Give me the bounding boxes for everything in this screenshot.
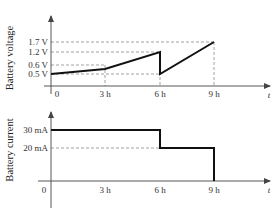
xtick-9h: 9 h bbox=[208, 89, 220, 99]
xtick-3h: 3 h bbox=[99, 89, 111, 99]
xtick-3h: 3 h bbox=[99, 185, 111, 195]
xtick-9h: 9 h bbox=[208, 185, 220, 195]
battery-charts: 1.7 V 1.2 V 0.6 V 0.5 V 0 3 h 6 h 9 h t … bbox=[0, 0, 277, 219]
xtick-0: 0 bbox=[42, 185, 47, 195]
x-axis-label-t: t bbox=[268, 185, 271, 195]
ytick-30ma: 30 mA bbox=[23, 125, 48, 135]
voltage-gridlines bbox=[51, 42, 214, 86]
xtick-0: 0 bbox=[55, 89, 60, 99]
current-y-axis-label: Battery current bbox=[4, 118, 15, 181]
xtick-6h: 6 h bbox=[154, 89, 166, 99]
ytick-1.7v: 1.7 V bbox=[28, 37, 48, 47]
ytick-0.5v: 0.5 V bbox=[28, 69, 48, 79]
ytick-20ma: 20 mA bbox=[23, 143, 48, 153]
voltage-chart: 1.7 V 1.2 V 0.6 V 0.5 V 0 3 h 6 h 9 h t … bbox=[4, 16, 271, 100]
ytick-1.2v: 1.2 V bbox=[28, 47, 48, 57]
voltage-line bbox=[51, 42, 214, 74]
current-line bbox=[51, 130, 214, 181]
voltage-y-axis-label: Battery voltage bbox=[4, 25, 15, 90]
xtick-6h: 6 h bbox=[154, 185, 166, 195]
x-axis-label-t: t bbox=[268, 90, 271, 100]
current-chart: 30 mA 20 mA 0 3 h 6 h 9 h t Battery curr… bbox=[4, 112, 271, 208]
